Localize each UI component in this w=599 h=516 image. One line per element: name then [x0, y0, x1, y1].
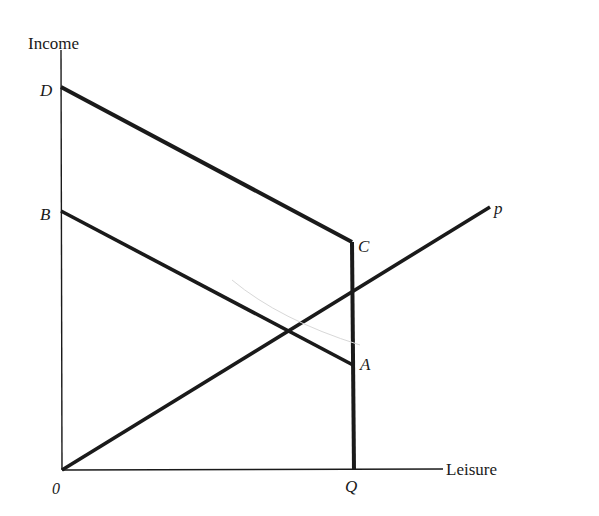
budget-line-BA [61, 211, 353, 365]
point-label-Q: Q [345, 477, 357, 496]
point-label-A: A [359, 355, 371, 374]
diagram-canvas: Income Leisure 0 D B C A Q p [0, 0, 599, 516]
point-label-D: D [39, 81, 53, 100]
point-label-C: C [358, 237, 370, 256]
y-axis [61, 50, 62, 470]
income-leisure-diagram: Income Leisure 0 D B C A Q p [0, 0, 599, 516]
x-axis [62, 469, 443, 470]
point-label-p: p [493, 199, 503, 218]
budget-line-DC [61, 87, 352, 242]
y-axis-label: Income [28, 34, 79, 53]
origin-label: 0 [52, 480, 60, 497]
x-axis-label: Leisure [446, 460, 497, 479]
point-label-B: B [40, 205, 51, 224]
vertical-segment-CQ [352, 242, 354, 470]
